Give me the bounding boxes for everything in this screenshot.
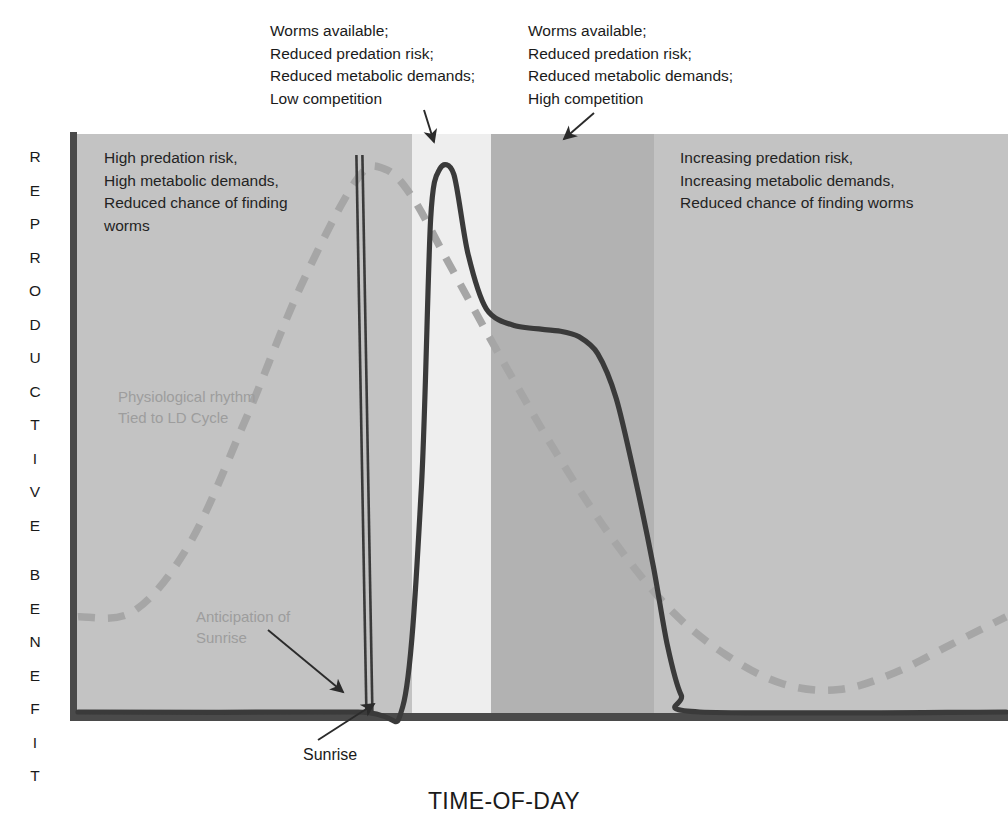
x-axis-title: TIME-OF-DAY [0, 788, 1008, 815]
y-axis-letter: B [18, 558, 52, 592]
figure-canvas: R E P R O D U C T I V E B E N E F I T [0, 0, 1008, 835]
y-axis-letter: E [18, 509, 52, 543]
annotation-top-right: Worms available; Reduced predation risk;… [528, 20, 808, 110]
y-axis-letter: N [18, 625, 52, 659]
annotation-chart-right: Increasing predation risk, Increasing me… [680, 147, 980, 215]
annotation-chart-left: High predation risk, High metabolic dema… [104, 147, 384, 237]
y-axis-letter: F [18, 692, 52, 726]
y-axis-letter: E [18, 592, 52, 626]
y-axis-letter: I [18, 726, 52, 760]
annotation-sunrise: Sunrise [303, 744, 357, 767]
y-axis-letter: V [18, 475, 52, 509]
y-axis-letter: R [18, 241, 52, 275]
annotation-anticipation-of-sunrise: Anticipation of Sunrise [196, 606, 376, 648]
y-axis-letter: O [18, 274, 52, 308]
y-axis-letter: D [18, 308, 52, 342]
annotation-physiological-rhythm: Physiological rhythm Tied to LD Cycle [118, 386, 338, 428]
y-axis-line [70, 132, 77, 720]
x-axis-line [70, 713, 1008, 721]
annotation-top-left: Worms available; Reduced predation risk;… [270, 20, 570, 110]
band-day [654, 134, 1008, 716]
band-early-morning [491, 134, 654, 716]
y-axis-letter: U [18, 341, 52, 375]
y-axis-letter: E [18, 659, 52, 693]
y-axis-title: R E P R O D U C T I V E B E N E F I T [18, 140, 52, 793]
y-axis-letter: T [18, 408, 52, 442]
y-axis-letter: P [18, 207, 52, 241]
y-axis-word-gap [18, 542, 52, 558]
y-axis-letter: C [18, 375, 52, 409]
y-axis-letter: I [18, 442, 52, 476]
y-axis-letter: R [18, 140, 52, 174]
band-dawn-window [412, 134, 491, 716]
y-axis-letter: E [18, 174, 52, 208]
